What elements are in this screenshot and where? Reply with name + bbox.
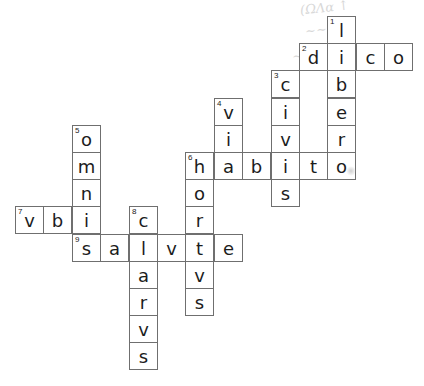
cell-letter: v: [158, 237, 185, 261]
cell-letter: i: [272, 155, 299, 179]
crossword-cell[interactable]: 8c: [129, 206, 158, 234]
crossword-cell[interactable]: i: [271, 98, 300, 126]
cell-letter: b: [243, 155, 270, 179]
cell-letter: v: [272, 128, 299, 152]
crossword-cell[interactable]: 9s: [72, 234, 101, 262]
cell-letter: o: [186, 182, 213, 206]
crossword-cell[interactable]: a: [129, 261, 158, 289]
cell-letter: a: [215, 155, 242, 179]
cell-letter: h: [186, 155, 213, 179]
cell-letter: m: [73, 155, 100, 179]
crossword-cell[interactable]: 4v: [214, 98, 243, 126]
crossword-cell[interactable]: i: [327, 43, 356, 71]
cell-letter: s: [272, 182, 299, 206]
crossword-cell[interactable]: v: [129, 315, 158, 343]
cell-letter: v: [16, 209, 43, 233]
cell-letter: s: [186, 291, 213, 315]
cell-letter: i: [272, 101, 299, 125]
crossword-cell[interactable]: 3c: [271, 70, 300, 98]
cell-letter: d: [300, 46, 327, 70]
cell-letter: r: [186, 209, 213, 233]
cell-letter: e: [328, 101, 355, 125]
crossword-cell[interactable]: 5o: [72, 125, 101, 153]
crossword-cell[interactable]: t: [299, 152, 328, 180]
cell-letter: a: [101, 237, 128, 261]
crossword-cell[interactable]: s: [271, 179, 300, 207]
crossword-grid: 1libero3civis4via5omni6hortvs8clarvs2dco…: [0, 0, 424, 386]
crossword-cell[interactable]: e: [214, 234, 243, 262]
crossword-cell[interactable]: t: [185, 234, 214, 262]
cell-letter: c: [272, 73, 299, 97]
crossword-cell[interactable]: a: [214, 152, 243, 180]
cell-letter: b: [328, 73, 355, 97]
crossword-cell[interactable]: s: [129, 342, 158, 370]
cell-letter: s: [130, 345, 157, 369]
cell-letter: r: [130, 291, 157, 315]
cell-letter: i: [215, 128, 242, 152]
crossword-cell[interactable]: 6h: [185, 152, 214, 180]
cell-letter: v: [215, 101, 242, 125]
cell-letter: e: [215, 237, 242, 261]
cell-letter: i: [73, 209, 100, 233]
crossword-cell[interactable]: s: [185, 288, 214, 316]
crossword-cell[interactable]: m: [72, 152, 101, 180]
crossword-cell[interactable]: v: [271, 125, 300, 153]
crossword-cell[interactable]: i: [271, 152, 300, 180]
crossword-cell[interactable]: a: [100, 234, 129, 262]
cell-letter: b: [44, 209, 71, 233]
crossword-cell[interactable]: v: [185, 261, 214, 289]
smudge: [346, 166, 356, 176]
crossword-cell[interactable]: v: [157, 234, 186, 262]
crossword-cell[interactable]: r: [129, 288, 158, 316]
crossword-cell[interactable]: l: [129, 234, 158, 262]
crossword-cell[interactable]: o: [185, 179, 214, 207]
crossword-cell[interactable]: b: [242, 152, 271, 180]
crossword-cell[interactable]: n: [72, 179, 101, 207]
cell-letter: v: [130, 318, 157, 342]
crossword-cell[interactable]: 1l: [327, 16, 356, 44]
cell-letter: i: [328, 46, 355, 70]
cell-letter: l: [328, 19, 355, 43]
crossword-cell[interactable]: b: [327, 70, 356, 98]
cell-letter: o: [73, 128, 100, 152]
cell-letter: t: [300, 155, 327, 179]
crossword-cell[interactable]: e: [327, 98, 356, 126]
cell-letter: o: [385, 46, 412, 70]
cell-letter: a: [130, 264, 157, 288]
crossword-cell[interactable]: i: [72, 206, 101, 234]
cell-letter: n: [73, 182, 100, 206]
crossword-cell[interactable]: 7v: [15, 206, 44, 234]
crossword-cell[interactable]: r: [327, 125, 356, 153]
cell-letter: v: [186, 264, 213, 288]
cell-letter: c: [130, 209, 157, 233]
cell-letter: r: [328, 128, 355, 152]
crossword-cell[interactable]: i: [214, 125, 243, 153]
cell-letter: t: [186, 237, 213, 261]
cell-letter: s: [73, 237, 100, 261]
crossword-cell[interactable]: o: [384, 43, 413, 71]
crossword-cell[interactable]: c: [356, 43, 385, 71]
crossword-cell[interactable]: b: [43, 206, 72, 234]
cell-letter: l: [130, 237, 157, 261]
crossword-cell[interactable]: r: [185, 206, 214, 234]
cell-letter: c: [357, 46, 384, 70]
crossword-cell[interactable]: 2d: [299, 43, 328, 71]
